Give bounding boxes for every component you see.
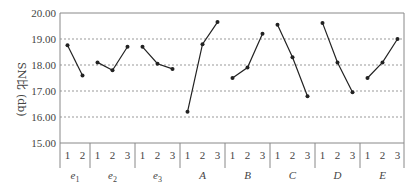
y-tick-label: 18.00 (31, 59, 56, 71)
series-e3 (141, 45, 175, 71)
series-C (276, 23, 310, 99)
y-tick-label: 19.00 (31, 33, 56, 45)
y-tick-label: 17.00 (31, 85, 56, 97)
level-label: 3 (350, 149, 356, 161)
level-label: 3 (170, 149, 176, 161)
data-point-e2-2 (111, 68, 115, 72)
y-tick-label: 16.00 (31, 111, 56, 123)
data-point-B-3 (261, 32, 265, 36)
data-point-C-3 (306, 94, 310, 98)
data-point-e3-1 (141, 45, 145, 49)
data-point-D-3 (351, 90, 355, 94)
data-point-C-2 (291, 55, 295, 59)
factor-label-e1: e1 (71, 169, 80, 184)
y-tick-label: 15.00 (31, 137, 56, 149)
series-B (231, 32, 265, 80)
level-label: 2 (155, 149, 161, 161)
level-label: 1 (275, 149, 281, 161)
level-label: 2 (380, 149, 386, 161)
data-point-D-1 (321, 21, 325, 25)
x-axis-factor-table: 12e1123e2123e3123A123B123C123D123E (65, 143, 401, 184)
data-point-C-1 (276, 23, 280, 27)
level-label: 3 (395, 149, 401, 161)
data-point-e3-2 (156, 62, 160, 66)
level-label: 1 (230, 149, 236, 161)
data-point-B-1 (231, 76, 235, 80)
data-point-E-2 (381, 60, 385, 64)
level-label: 1 (140, 149, 146, 161)
level-label: 3 (125, 149, 131, 161)
level-label: 2 (335, 149, 341, 161)
series-e1 (66, 43, 85, 77)
level-label: 2 (290, 149, 296, 161)
factor-series (66, 20, 400, 114)
data-point-e1-1 (66, 43, 70, 47)
level-label: 3 (215, 149, 221, 161)
factor-label-C: C (289, 169, 297, 181)
factor-label-B: B (244, 169, 251, 181)
data-point-e2-1 (96, 60, 100, 64)
factor-label-D: D (333, 169, 342, 181)
level-label: 2 (200, 149, 206, 161)
data-point-B-2 (246, 66, 250, 70)
level-label: 1 (95, 149, 101, 161)
level-label: 2 (80, 149, 86, 161)
factor-label-E: E (378, 169, 386, 181)
data-point-e1-2 (81, 73, 85, 77)
y-axis-label-main: SN比 (15, 62, 28, 90)
y-axis-ticks: 15.0016.0017.0018.0019.0020.00 (31, 7, 56, 149)
y-tick-label: 20.00 (31, 7, 56, 19)
data-point-A-3 (216, 20, 220, 24)
data-point-e3-3 (171, 67, 175, 71)
level-label: 1 (185, 149, 191, 161)
level-label: 1 (320, 149, 326, 161)
level-label: 1 (65, 149, 71, 161)
series-D (321, 21, 355, 94)
data-point-D-2 (336, 60, 340, 64)
data-point-E-1 (366, 76, 370, 80)
factor-label-e3: e3 (153, 169, 162, 184)
series-A (186, 20, 220, 114)
sn-ratio-main-effects-chart: 15.0016.0017.0018.0019.0020.00 12e1123e2… (0, 0, 410, 190)
factor-label-e2: e2 (108, 169, 117, 184)
level-label: 2 (110, 149, 116, 161)
level-label: 3 (260, 149, 266, 161)
series-e2 (96, 45, 130, 72)
y-axis-label: SN比 (db) (15, 62, 28, 117)
data-point-A-2 (201, 42, 205, 46)
data-point-A-1 (186, 110, 190, 114)
level-label: 2 (245, 149, 251, 161)
factor-label-A: A (198, 169, 206, 181)
data-point-E-3 (396, 37, 400, 41)
data-point-e2-3 (126, 45, 130, 49)
level-label: 3 (305, 149, 311, 161)
level-label: 1 (365, 149, 371, 161)
series-E (366, 37, 400, 80)
y-axis-label-unit: (db) (15, 94, 28, 117)
